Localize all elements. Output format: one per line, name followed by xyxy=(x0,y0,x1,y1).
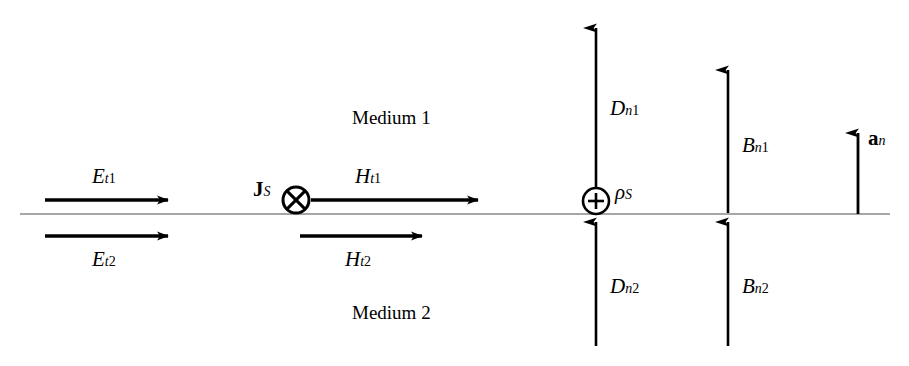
label-a-n: an xyxy=(868,128,886,149)
circle-plus-icon xyxy=(583,188,609,214)
medium-2-label: Medium 2 xyxy=(352,303,431,322)
circle-cross-icon xyxy=(283,187,309,213)
label-B-n2: Bn2 xyxy=(742,276,769,297)
label-E-t1: Et1 xyxy=(92,166,116,187)
label-D-n1: Dn1 xyxy=(610,98,639,119)
label-rho-S: ρS xyxy=(615,182,632,203)
label-H-t1: Ht1 xyxy=(355,166,381,187)
medium-1-label: Medium 1 xyxy=(352,108,431,127)
label-B-n1: Bn1 xyxy=(742,135,769,156)
boundary-conditions-figure: Medium 1 Medium 2 Et1 Et2 Ht1 Ht2 Dn1 Dn… xyxy=(0,0,909,366)
label-J-S: JS xyxy=(253,179,271,200)
figure-vector-canvas xyxy=(0,0,909,366)
label-H-t2: Ht2 xyxy=(345,249,371,270)
label-D-n2: Dn2 xyxy=(610,276,639,297)
label-E-t2: Et2 xyxy=(92,249,116,270)
